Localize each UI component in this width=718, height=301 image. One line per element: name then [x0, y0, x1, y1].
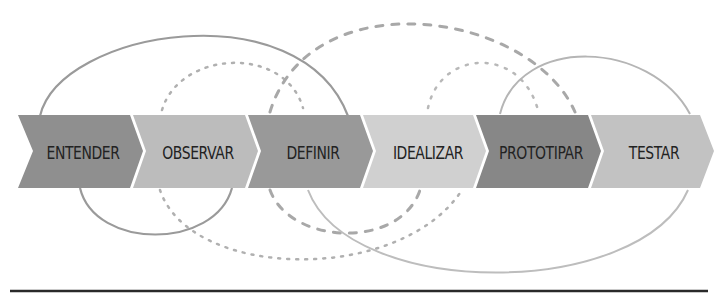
step-label-definir: DEFINIR [268, 139, 358, 167]
idealizar-prototipar-loop-top [428, 63, 538, 110]
step-label-testar: TESTAR [610, 139, 699, 167]
step-label-prototipar: PROTOTIPAR [494, 139, 587, 167]
design-thinking-diagram: ENTENDER OBSERVAR DEFINIR IDEALIZAR PROT… [0, 0, 718, 301]
observar-definir-loop-top [162, 63, 303, 110]
entender-observar-loop-bottom [80, 188, 232, 235]
prototipar-testar-loop-top [500, 57, 690, 114]
step-label-observar: OBSERVAR [152, 139, 244, 167]
step-label-idealizar: IDEALIZAR [382, 139, 474, 167]
step-label-entender: ENTENDER [38, 139, 128, 167]
entender-definir-loop-top [40, 36, 348, 116]
definir-idealizar-loop-bottom [270, 190, 420, 233]
observar-idealizar-loop-bottom [160, 190, 462, 259]
definir-prototipar-loop-top [270, 24, 575, 112]
